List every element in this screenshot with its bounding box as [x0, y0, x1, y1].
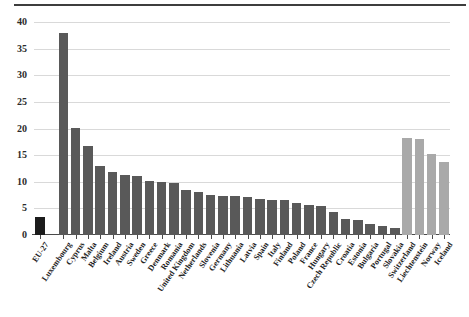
x-tick: [407, 235, 408, 239]
bar-luxembourg: [59, 33, 69, 235]
bar-slovenia: [206, 195, 216, 235]
x-label-eu-27: EU-27: [31, 241, 51, 264]
bar-slot: [205, 22, 217, 235]
bar-slot: [155, 22, 167, 235]
x-tick: [174, 235, 175, 239]
bar-czech-republic: [329, 212, 339, 235]
bar-slot: [290, 22, 302, 235]
x-tick: [419, 235, 420, 239]
x-tick: [76, 235, 77, 239]
bar-slot: [364, 22, 376, 235]
bar-portugal: [378, 226, 388, 235]
x-tick: [113, 235, 114, 239]
x-tick: [333, 235, 334, 239]
bar-hungary: [316, 206, 326, 235]
bar-slot: [34, 22, 46, 235]
bar-latvia: [243, 197, 253, 235]
x-tick: [223, 235, 224, 239]
x-tick: [321, 235, 322, 239]
bar-romania: [169, 183, 179, 235]
x-tick: [297, 235, 298, 239]
x-tick: [248, 235, 249, 239]
bar-slot: [94, 22, 106, 235]
bar-slot: [106, 22, 118, 235]
bar-lithuania: [230, 196, 240, 235]
x-tick: [260, 235, 261, 239]
bar-slot: [327, 22, 339, 235]
bar-chart: 0510152025303540 EU-27LuxembourgCyprusMa…: [0, 0, 469, 317]
x-tick: [432, 235, 433, 239]
x-tick: [149, 235, 150, 239]
y-tick-label: 10: [17, 177, 27, 187]
bar-norway: [427, 154, 437, 235]
bar-iceland: [439, 162, 449, 235]
bar-malta: [83, 146, 93, 235]
bar-denmark: [157, 182, 167, 235]
x-tick: [63, 235, 64, 239]
bar-eu-27: [35, 217, 45, 235]
bar-slot: [57, 22, 69, 235]
bar-spain: [255, 199, 265, 235]
bar-slot: [413, 22, 425, 235]
bar-slot: [180, 22, 192, 235]
bars-group: [34, 22, 450, 235]
bar-slot: [438, 22, 450, 235]
bar-slot: [401, 22, 413, 235]
x-tick: [272, 235, 273, 239]
x-tick: [358, 235, 359, 239]
x-tick: [198, 235, 199, 239]
bar-slot: [143, 22, 155, 235]
bar-slot: [192, 22, 204, 235]
x-tick: [100, 235, 101, 239]
bar-slot: [315, 22, 327, 235]
bar-liechtenstein: [415, 139, 425, 235]
bar-slot: [119, 22, 131, 235]
bar-slot: [352, 22, 364, 235]
bar-slot: [229, 22, 241, 235]
x-tick: [88, 235, 89, 239]
y-tick-label: 5: [22, 203, 27, 213]
bar-cyprus: [71, 128, 81, 235]
x-tick: [186, 235, 187, 239]
y-tick-label: 15: [17, 150, 27, 160]
bar-switzerland: [402, 138, 412, 235]
x-tick: [211, 235, 212, 239]
bar-slovakia: [390, 228, 400, 235]
x-tick: [137, 235, 138, 239]
bar-slot: [82, 22, 94, 235]
x-tick: [309, 235, 310, 239]
y-tick-label: 30: [17, 70, 27, 80]
x-tick: [40, 235, 41, 239]
top-border-rule: [14, 4, 466, 6]
bar-poland: [292, 203, 302, 235]
y-tick-label: 40: [17, 17, 27, 27]
x-tick: [383, 235, 384, 239]
y-tick-label: 0: [22, 230, 27, 240]
bar-ireland: [108, 172, 118, 235]
bar-slot: [340, 22, 352, 235]
x-tick: [370, 235, 371, 239]
bar-slot: [241, 22, 253, 235]
bar-slot: [131, 22, 143, 235]
bar-greece: [145, 181, 155, 235]
bar-sweden: [132, 176, 142, 235]
bar-bulgaria: [365, 224, 375, 235]
bar-slot: [168, 22, 180, 235]
bar-slot: [217, 22, 229, 235]
y-tick-label: 20: [17, 124, 27, 134]
bar-estonia: [353, 220, 363, 235]
x-tick: [125, 235, 126, 239]
bar-slot: [70, 22, 82, 235]
y-tick-label: 25: [17, 97, 27, 107]
x-tick: [284, 235, 285, 239]
x-tick: [444, 235, 445, 239]
x-tick: [235, 235, 236, 239]
bar-netherlands: [194, 192, 204, 235]
x-tick: [395, 235, 396, 239]
x-tick: [162, 235, 163, 239]
bar-slot: [278, 22, 290, 235]
bar-united-kingdom: [181, 190, 191, 235]
bar-italy: [267, 200, 277, 235]
bar-croatia: [341, 219, 351, 236]
plot-area: 0510152025303540 EU-27LuxembourgCyprusMa…: [34, 22, 450, 235]
